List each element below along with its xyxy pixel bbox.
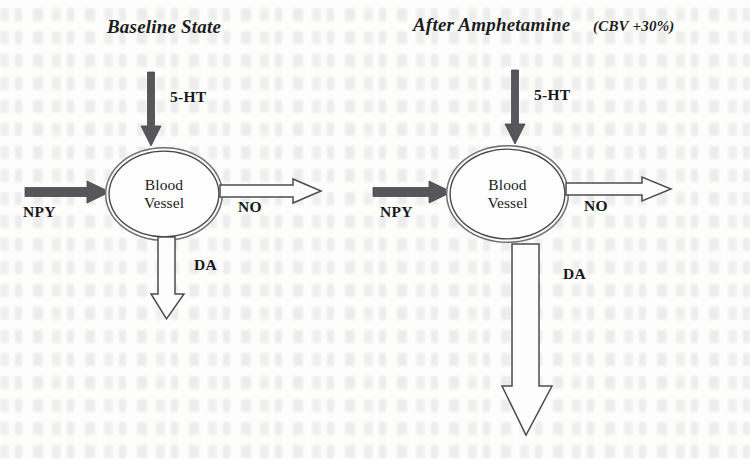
panel-after-amphetamine-title: After Amphetamine [413,14,570,36]
blood-vessel-label-baseline: Blood Vessel [105,176,223,212]
arrow-npy-baseline [25,180,111,204]
arrow-label-no-baseline: NO [238,198,262,216]
vessel-label-line1: Blood [446,176,569,194]
blood-vessel-amphetamine: Blood Vessel [446,145,569,243]
panel-after-amphetamine-subtitle: (CBV +30%) [593,18,675,35]
vessel-label-line2: Vessel [446,194,569,212]
arrow-5ht-amphetamine [503,70,527,146]
panel-after-amphetamine: After Amphetamine (CBV +30%) 5-HT NPY Bl… [375,0,750,459]
vessel-label-line1: Blood [105,176,223,194]
vessel-label-line2: Vessel [105,194,223,212]
arrow-da-baseline [150,236,186,322]
arrow-label-da-amphetamine: DA [563,265,586,283]
arrow-label-da-baseline: DA [194,256,217,274]
panel-baseline: Baseline State 5-HT NPY Blood Vessel NO … [0,0,375,459]
arrow-npy-amphetamine [373,180,453,204]
arrow-da-amphetamine [500,243,554,439]
arrow-label-npy-baseline: NPY [23,203,56,221]
panel-baseline-title: Baseline State [107,16,221,38]
arrow-label-5ht-baseline: 5-HT [170,88,207,106]
blood-vessel-baseline: Blood Vessel [105,147,223,241]
arrow-no-amphetamine [565,176,673,202]
figure-canvas: Baseline State 5-HT NPY Blood Vessel NO … [0,0,750,459]
arrow-5ht-baseline [139,72,163,148]
arrow-no-baseline [219,178,323,204]
blood-vessel-label-amphetamine: Blood Vessel [446,176,569,212]
arrow-label-5ht-amphetamine: 5-HT [534,86,571,104]
arrow-label-npy-amphetamine: NPY [380,203,413,221]
arrow-label-no-amphetamine: NO [584,197,608,215]
